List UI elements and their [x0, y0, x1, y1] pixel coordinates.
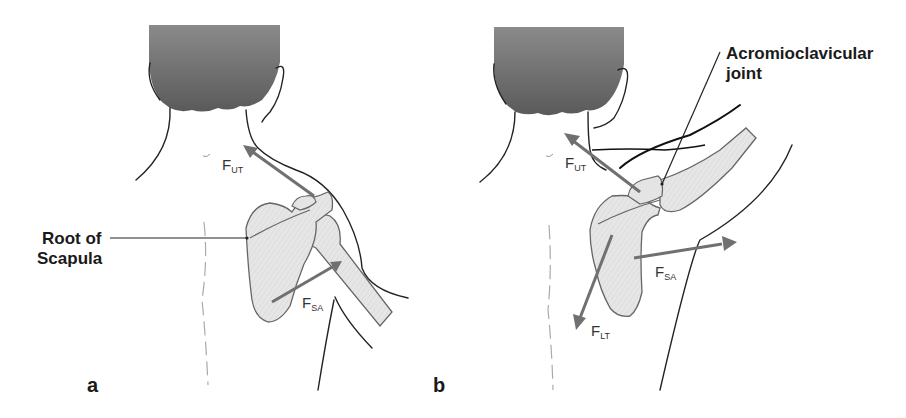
acromion-b [628, 176, 663, 204]
panel-label-b: b [433, 374, 445, 396]
callout-ac-line1: Acromioclavicular [726, 44, 874, 63]
callout-ac-line2: joint [725, 64, 762, 83]
force-label-fut-a: FUT [222, 156, 244, 175]
neck-mark-a [203, 154, 210, 157]
neck-mark-b [546, 154, 553, 157]
force-label-flt-b: FLT [591, 322, 611, 341]
callout-root-line1: Root of [42, 229, 102, 248]
force-label-fsa-a: FSA [302, 294, 323, 313]
force-arrow-fsa-b [634, 244, 722, 258]
arrowhead-fsa-b [722, 236, 737, 251]
neck-left-b [480, 112, 515, 182]
spine-a [202, 222, 208, 385]
diagram-canvas: Root of Scapula FUT FSA a [0, 0, 906, 418]
hair-a [149, 25, 280, 112]
arm-lower-line-b [592, 145, 705, 150]
hair-b [494, 27, 624, 115]
neck-left-a [136, 108, 170, 180]
neck-right-b [588, 112, 606, 170]
panel-a [110, 25, 408, 390]
torso-side-a [318, 300, 334, 390]
arrowhead-fut-a [243, 145, 258, 158]
panel-label-a: a [87, 374, 99, 396]
spine-b [548, 225, 553, 390]
leader-dot-root [245, 236, 248, 239]
force-label-fsa-b: FSA [655, 263, 676, 282]
arrowhead-flt-b [573, 314, 586, 330]
force-label-fut-b: FUT [565, 154, 587, 173]
callout-root-line2: Scapula [37, 249, 103, 268]
